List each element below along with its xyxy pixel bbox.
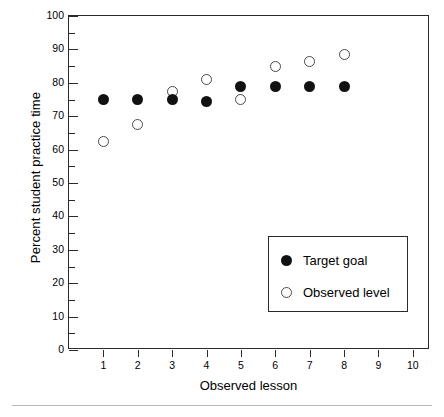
y-axis-tick-minor: [69, 233, 75, 234]
chart-legend: Target goal Observed level: [268, 236, 408, 312]
scatter-chart: Percent student practice time 0102030405…: [0, 0, 444, 417]
x-axis-tick: [344, 350, 345, 357]
x-axis-tick-label: 7: [300, 359, 320, 371]
data-point-target-goal: [98, 94, 109, 105]
y-axis-tick-minor: [69, 100, 75, 101]
x-axis-tick-label: 10: [403, 359, 423, 371]
data-point-observed-level: [304, 56, 315, 67]
x-axis-tick-label: 3: [162, 359, 182, 371]
y-axis-tick-minor: [69, 267, 75, 268]
y-axis-tick-label: 100: [34, 10, 64, 21]
y-axis-tick-major: [69, 317, 78, 318]
x-axis-tick-label: 2: [128, 359, 148, 371]
x-axis-tick: [241, 350, 242, 357]
x-axis-tick: [172, 350, 173, 357]
y-axis-tick-major: [69, 49, 78, 50]
x-axis-tick-label: 1: [93, 359, 113, 371]
legend-entry-observed-level: Observed level: [269, 280, 407, 304]
x-axis-tick: [378, 350, 379, 357]
y-axis-tick-major: [69, 116, 78, 117]
y-axis-tick-label: 10: [34, 311, 64, 322]
data-point-observed-level: [235, 94, 246, 105]
footer-divider: [12, 405, 432, 406]
x-axis-tick-label: 9: [368, 359, 388, 371]
x-axis-title: Observed lesson: [68, 378, 429, 393]
y-axis-tick-label: 90: [34, 43, 64, 54]
data-point-observed-level: [132, 119, 143, 130]
x-axis-tick-label: 4: [197, 359, 217, 371]
y-axis-tick-major: [69, 250, 78, 251]
y-axis-tick-label: 70: [34, 110, 64, 121]
legend-label-observed-level: Observed level: [303, 285, 390, 300]
y-axis-tick-label: 20: [34, 277, 64, 288]
x-axis-tick-label: 5: [231, 359, 251, 371]
y-axis-tick-major: [69, 283, 78, 284]
data-point-observed-level: [339, 49, 350, 60]
y-axis-tick-minor: [69, 333, 75, 334]
x-axis-tick: [103, 350, 104, 357]
y-axis-tick-minor: [69, 33, 75, 34]
y-axis-tick-major: [69, 150, 78, 151]
data-point-target-goal: [339, 81, 350, 92]
x-axis-tick-label: 8: [334, 359, 354, 371]
y-axis-tick-label: 30: [34, 244, 64, 255]
y-axis-tick-label: 40: [34, 210, 64, 221]
y-axis-tick-major: [69, 16, 78, 17]
filled-circle-icon: [281, 255, 292, 266]
data-point-observed-level: [98, 136, 109, 147]
y-axis-tick-minor: [69, 166, 75, 167]
x-axis-tick: [413, 350, 414, 357]
data-point-target-goal: [132, 94, 143, 105]
legend-label-target-goal: Target goal: [303, 253, 367, 268]
y-axis-tick-label: 0: [34, 344, 64, 355]
x-axis-tick: [310, 350, 311, 357]
data-point-target-goal: [167, 94, 178, 105]
y-axis-tick-label: 60: [34, 144, 64, 155]
y-axis-tick-minor: [69, 133, 75, 134]
y-axis-tick-major: [69, 83, 78, 84]
y-axis-tick-major: [69, 183, 78, 184]
y-axis-tick-minor: [69, 66, 75, 67]
y-axis-tick-major: [69, 216, 78, 217]
y-axis-tick-minor: [69, 200, 75, 201]
x-axis-tick: [275, 350, 276, 357]
data-point-target-goal: [270, 81, 281, 92]
data-point-observed-level: [201, 74, 212, 85]
data-point-target-goal: [304, 81, 315, 92]
y-axis-tick-label: 80: [34, 77, 64, 88]
y-axis-tick-label: 50: [34, 177, 64, 188]
data-point-target-goal: [201, 96, 212, 107]
y-axis-tick-minor: [69, 300, 75, 301]
data-point-target-goal: [235, 81, 246, 92]
legend-entry-target-goal: Target goal: [269, 248, 407, 272]
x-axis-tick: [138, 350, 139, 357]
y-axis-tick-major: [69, 350, 78, 351]
x-axis-tick: [207, 350, 208, 357]
data-point-observed-level: [270, 61, 281, 72]
open-circle-icon: [281, 287, 292, 298]
x-axis-tick-label: 6: [265, 359, 285, 371]
